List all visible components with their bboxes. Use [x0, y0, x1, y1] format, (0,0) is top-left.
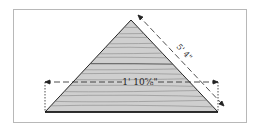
triangle-diagram: 1' 10⅝" 5' 4": [0, 0, 260, 132]
side-dimension-label: 5' 4": [175, 42, 194, 62]
wood-triangle: [40, 20, 220, 112]
base-dimension-label: 1' 10⅝": [122, 77, 157, 87]
